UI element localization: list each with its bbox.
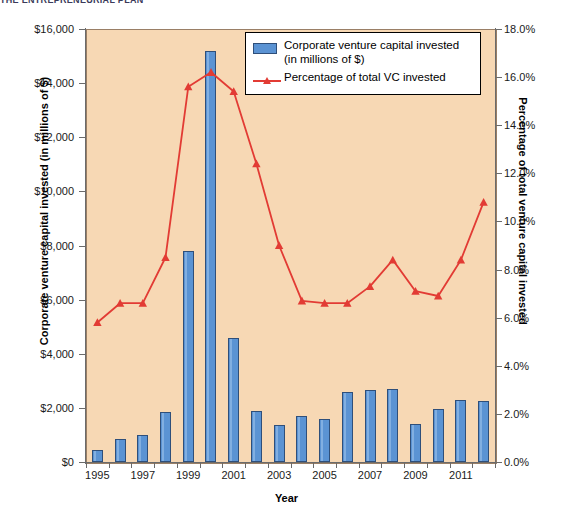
legend-line-key [253,71,284,86]
bar [274,425,285,462]
x-tick [154,463,155,468]
x-tick [86,463,87,468]
x-tick-label: 1995 [77,470,117,481]
bar [115,439,126,462]
bar [228,338,239,462]
bar [455,400,466,462]
right-tick [496,366,502,367]
legend-item-line: Percentage of total VC invested [253,71,473,86]
bar [251,411,262,462]
x-tick [495,463,496,468]
x-tick [427,463,428,468]
x-tick [313,463,314,468]
legend-line-label: Percentage of total VC invested [284,71,446,85]
left-tick-label: $4,000 [0,349,74,360]
x-tick [109,463,110,468]
x-tick [291,463,292,468]
x-tick [177,463,178,468]
legend-bar-key [253,39,284,54]
x-tick [245,463,246,468]
right-tick-label: 0.0% [504,457,529,468]
bar [296,416,307,462]
x-tick [200,463,201,468]
right-axis-spine [495,28,496,464]
right-tick-label: 4.0% [504,361,529,372]
line-marker-icon [253,76,281,86]
left-tick-label: $10,000 [0,186,74,197]
x-tick-label: 2009 [395,470,435,481]
left-tick-label: $12,000 [0,132,74,143]
x-tick [268,463,269,468]
x-tick-label: 2011 [441,470,481,481]
x-tick [359,463,360,468]
left-tick-label: $2,000 [0,403,74,414]
left-tick [79,354,85,355]
x-tick [222,463,223,468]
bar [342,392,353,462]
left-tick-label: $6,000 [0,295,74,306]
left-tick [79,300,85,301]
bar-swatch-icon [253,43,277,54]
x-tick-label: 2001 [214,470,254,481]
x-tick-label: 1999 [168,470,208,481]
left-tick [79,137,85,138]
left-tick [79,191,85,192]
chart-figure: $0$2,000$4,000$6,000$8,000$10,000$12,000… [0,0,573,525]
x-tick-label: 2003 [259,470,299,481]
x-tick [336,463,337,468]
bar [137,435,148,462]
x-tick [381,463,382,468]
bar [365,390,376,462]
left-tick-label: $14,000 [0,78,74,89]
bar [387,389,398,462]
x-tick [450,463,451,468]
legend-bar-label: Corporate venture capital invested (in m… [284,39,473,66]
left-tick-label: $16,000 [0,24,74,35]
left-tick-label: $0 [0,457,74,468]
left-tick [79,462,85,463]
right-tick [496,318,502,319]
x-tick [131,463,132,468]
left-axis-spine [85,28,86,464]
right-tick-label: 2.0% [504,409,529,420]
bar [160,412,171,462]
right-tick-label: 18.0% [504,24,535,35]
right-tick [496,414,502,415]
bar [92,450,103,462]
left-tick [79,246,85,247]
bar [478,401,489,462]
right-tick [496,462,502,463]
right-tick [496,173,502,174]
right-tick [496,270,502,271]
x-tick-label: 2005 [305,470,345,481]
right-axis-title: Percentage of total venture capital inve… [517,71,529,351]
left-axis-title: Corporate venture capital invested (in m… [38,71,50,351]
chart-legend: Corporate venture capital invested (in m… [245,32,481,95]
bar [433,409,444,462]
x-axis-title: Year [0,492,573,504]
left-tick [79,83,85,84]
bar [205,51,216,462]
left-tick-label: $8,000 [0,241,74,252]
left-tick [79,29,85,30]
x-tick [404,463,405,468]
x-tick-label: 2007 [350,470,390,481]
right-tick [496,29,502,30]
right-tick [496,125,502,126]
x-tick [472,463,473,468]
bar [183,251,194,462]
legend-item-bar: Corporate venture capital invested (in m… [253,39,473,66]
right-tick [496,77,502,78]
left-tick [79,408,85,409]
bar [319,419,330,462]
right-tick [496,221,502,222]
bar [410,424,421,462]
x-tick-label: 1997 [123,470,163,481]
